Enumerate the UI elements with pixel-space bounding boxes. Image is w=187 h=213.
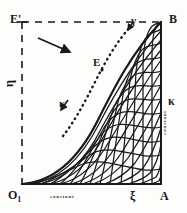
direction-arrow [38, 38, 70, 52]
label-xi-axis: ξ [130, 190, 135, 202]
point-E-marker [100, 68, 103, 71]
label-A: A [160, 190, 169, 202]
label-kappa-curve: κ [59, 98, 65, 109]
label-gamma-top: γ [131, 15, 136, 26]
label-O1-subscript: 1 [17, 195, 21, 204]
annotation-constant-bottom: constant [50, 194, 74, 199]
label-O1: O1 [8, 189, 21, 204]
diagram-canvas [0, 0, 187, 213]
figure-container: E' B A O1 E η ξ κ κ γ constant constant [0, 0, 187, 213]
label-E: E [93, 57, 100, 68]
label-E-prime: E' [10, 13, 21, 25]
label-B: B [169, 13, 177, 25]
label-kappa-right: κ [168, 95, 175, 107]
annotation-constant-right: constant [162, 110, 167, 134]
label-eta-axis: η [2, 80, 15, 87]
label-O1-letter: O [8, 188, 17, 202]
dotted-kappa-curve [63, 26, 131, 136]
